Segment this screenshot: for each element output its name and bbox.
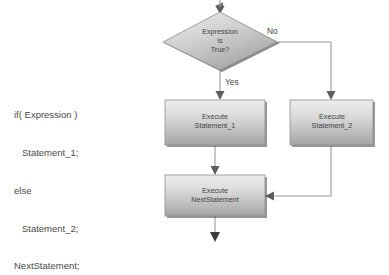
edge-label-no: No (267, 26, 278, 36)
code-line: Statement_1; (14, 147, 144, 160)
nextstatement-node[interactable] (165, 175, 267, 218)
code-line: else (14, 185, 144, 198)
decision-node[interactable] (163, 12, 280, 72)
statement2-node-shape (290, 100, 373, 145)
statement2-node[interactable] (290, 100, 375, 147)
code-line: if( Expression ) (14, 109, 144, 122)
decision-node-shape (163, 12, 277, 70)
code-line: Statement_2; (14, 223, 144, 236)
code-snippet: if( Expression ) Statement_1; else State… (14, 84, 144, 275)
edge-label-yes: Yes (225, 77, 239, 87)
code-line: NextStatement; (14, 260, 144, 273)
connector-exit-arrowhead (210, 232, 220, 242)
statement1-node-shape (165, 100, 265, 145)
connector-yes-arrowhead (216, 91, 225, 100)
connector-stmt2-to-next (273, 146, 331, 196)
connector-no-arrowhead (327, 91, 336, 100)
connector-stmt1-to-next-arrowhead (211, 166, 220, 175)
nextstatement-node-shape (165, 175, 265, 216)
statement1-node[interactable] (165, 100, 267, 147)
connector-no-path (278, 42, 331, 93)
